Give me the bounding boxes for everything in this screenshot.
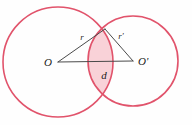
figure-container: O O' r r' d xyxy=(0,0,192,125)
center-distance-segment xyxy=(58,61,133,62)
label-radius-right: r' xyxy=(118,31,125,41)
circle-intersection-diagram: O O' r r' d xyxy=(0,0,192,125)
label-center-distance: d xyxy=(101,69,107,81)
label-center-left: O xyxy=(44,56,52,68)
label-radius-left: r xyxy=(80,32,84,42)
label-center-right: O' xyxy=(138,55,149,67)
